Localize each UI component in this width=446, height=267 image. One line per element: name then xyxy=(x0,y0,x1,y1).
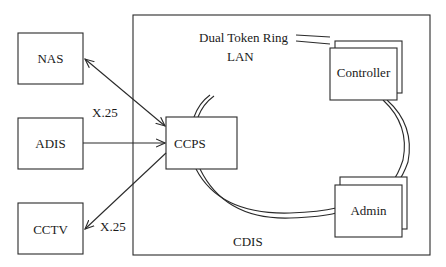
cdis-label: CDIS xyxy=(233,234,263,249)
node-ccps[interactable]: CCPS xyxy=(166,117,237,169)
x25-label-top: X.25 xyxy=(92,105,118,120)
ring-label-line1: Dual Token Ring xyxy=(199,30,289,45)
node-label: Controller xyxy=(337,65,391,80)
node-label: CCTV xyxy=(33,222,68,237)
x25-label-bottom: X.25 xyxy=(100,219,126,234)
node-label: Admin xyxy=(350,203,387,218)
node-cctv[interactable]: CCTV xyxy=(18,203,83,254)
node-controller[interactable]: Controller xyxy=(330,41,402,100)
system-diagram: NAS ADIS CCTV CCPS Controller Admin X.25… xyxy=(0,0,446,267)
ring-label-line2: LAN xyxy=(227,49,254,64)
node-nas[interactable]: NAS xyxy=(18,33,83,84)
node-admin[interactable]: Admin xyxy=(335,177,407,237)
node-label: CCPS xyxy=(174,136,206,151)
node-label: ADIS xyxy=(35,136,65,151)
node-label: NAS xyxy=(37,51,63,66)
node-adis[interactable]: ADIS xyxy=(18,118,83,169)
